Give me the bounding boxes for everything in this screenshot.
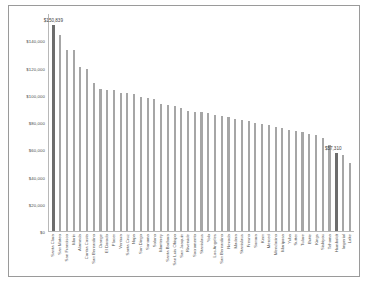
bar[interactable]: [174, 106, 176, 231]
bar[interactable]: [66, 50, 68, 231]
bar-highlighted[interactable]: [52, 25, 55, 231]
bar[interactable]: [288, 130, 290, 232]
bar[interactable]: [167, 105, 169, 231]
x-axis-tick-label: San Mateo: [57, 234, 62, 255]
x-axis-tick-label: Stanislaus: [239, 234, 244, 254]
bar[interactable]: [308, 134, 310, 231]
x-axis-slot: Solano: [150, 233, 157, 279]
bar[interactable]: [234, 119, 236, 231]
bar[interactable]: [268, 125, 270, 231]
y-axis-tick: $60,000: [29, 148, 45, 153]
bar[interactable]: [349, 163, 351, 231]
x-axis-tick-label: Santa Barbara: [165, 234, 170, 262]
bar-slot: [111, 14, 118, 231]
x-axis-slot: Alameda: [76, 233, 83, 279]
x-axis-tick-label: Ventura: [117, 234, 122, 249]
bar[interactable]: [295, 131, 297, 231]
x-axis-tick-label: Placer: [111, 234, 116, 246]
bar-slot: [198, 14, 205, 231]
bar[interactable]: [153, 99, 155, 231]
bar[interactable]: [328, 145, 330, 231]
x-axis-slot: Sonora: [252, 233, 259, 279]
x-axis-tick-label: Los Angeles: [212, 234, 217, 257]
x-axis-tick-label: San Bernardino: [90, 234, 95, 264]
bar-highlighted[interactable]: [335, 153, 338, 231]
x-axis-tick-label: Santa Clara: [50, 234, 55, 257]
x-axis-slot: Santa Clara: [49, 233, 56, 279]
x-axis-tick-label: Kern: [259, 234, 264, 243]
bar-slot: $57,310: [333, 14, 340, 231]
bar[interactable]: [241, 120, 243, 231]
bar-series: $150,839$57,310: [49, 14, 354, 231]
x-axis-slot: Imperial: [339, 233, 346, 279]
chart-frame: $0$20,000$40,000$60,000$80,000$100,000$1…: [8, 5, 360, 277]
bar[interactable]: [126, 93, 128, 231]
bar[interactable]: [207, 113, 209, 231]
bar-slot: [191, 14, 198, 231]
x-axis-slot: Sutter: [292, 233, 299, 279]
x-axis-slot: Contra Costa: [83, 233, 90, 279]
bar[interactable]: [322, 138, 324, 231]
x-axis-slot: Humboldt: [333, 233, 340, 279]
bar[interactable]: [147, 98, 149, 231]
bar[interactable]: [106, 90, 108, 231]
bar[interactable]: [59, 35, 61, 231]
x-axis: Santa ClaraSan MateoSan FranciscoMarinAl…: [48, 233, 354, 279]
x-axis-tick-label: Lake: [347, 234, 352, 243]
bar[interactable]: [342, 155, 344, 231]
bar[interactable]: [180, 108, 182, 231]
bar[interactable]: [93, 83, 95, 231]
x-axis-tick-label: Monterey: [158, 234, 163, 252]
bar-slot: [117, 14, 124, 231]
bar[interactable]: [214, 115, 216, 231]
bar[interactable]: [275, 127, 277, 231]
x-axis-slot: Tehama: [326, 233, 333, 279]
x-axis-tick-label: Stanislaus: [198, 234, 203, 254]
bar[interactable]: [221, 116, 223, 231]
bar[interactable]: [200, 112, 202, 231]
bar[interactable]: [140, 97, 142, 231]
bar[interactable]: [120, 93, 122, 231]
bar[interactable]: [113, 90, 115, 231]
bar[interactable]: [254, 123, 256, 231]
bar[interactable]: [227, 117, 229, 231]
x-axis-tick-label: Alameda: [77, 234, 82, 251]
bar-slot: [70, 14, 77, 231]
bar[interactable]: [160, 104, 162, 231]
bar[interactable]: [281, 128, 283, 231]
x-axis-slot: San Francisco: [63, 233, 70, 279]
bar-slot: [252, 14, 259, 231]
x-axis-slot: Siskiyou: [319, 233, 326, 279]
bar[interactable]: [86, 69, 88, 231]
bar-slot: [292, 14, 299, 231]
bar[interactable]: [79, 67, 81, 231]
plot-area: $150,839$57,310: [48, 14, 354, 232]
bar-slot: [77, 14, 84, 231]
x-axis-tick-label: Yuba: [286, 234, 291, 244]
bar[interactable]: [133, 94, 135, 231]
x-axis-tick-label: Marin: [70, 234, 75, 245]
bar[interactable]: [261, 124, 263, 231]
bar[interactable]: [248, 121, 250, 231]
x-axis-tick-label: Napa: [131, 234, 136, 244]
bar[interactable]: [194, 112, 196, 231]
x-axis-tick-label: Tulare: [300, 234, 305, 246]
bar[interactable]: [99, 89, 101, 231]
bar-slot: [279, 14, 286, 231]
bar-slot: [272, 14, 279, 231]
x-axis-tick-label: Sonora: [252, 234, 257, 248]
bar[interactable]: [73, 50, 75, 231]
x-axis-slot: Fresno: [245, 233, 252, 279]
bar[interactable]: [301, 132, 303, 231]
bar[interactable]: [187, 111, 189, 231]
bar-slot: [104, 14, 111, 231]
bar-slot: [286, 14, 293, 231]
x-axis-tick-label: Fresno: [246, 234, 251, 247]
x-axis-slot: Tulare: [299, 233, 306, 279]
bar-slot: [90, 14, 97, 231]
x-axis-slot: Sonoma: [144, 233, 151, 279]
x-axis-tick-label: Mariposa: [279, 234, 284, 252]
bar[interactable]: [315, 135, 317, 231]
x-axis-tick-label: Nevada: [225, 234, 230, 249]
bar-slot: [218, 14, 225, 231]
